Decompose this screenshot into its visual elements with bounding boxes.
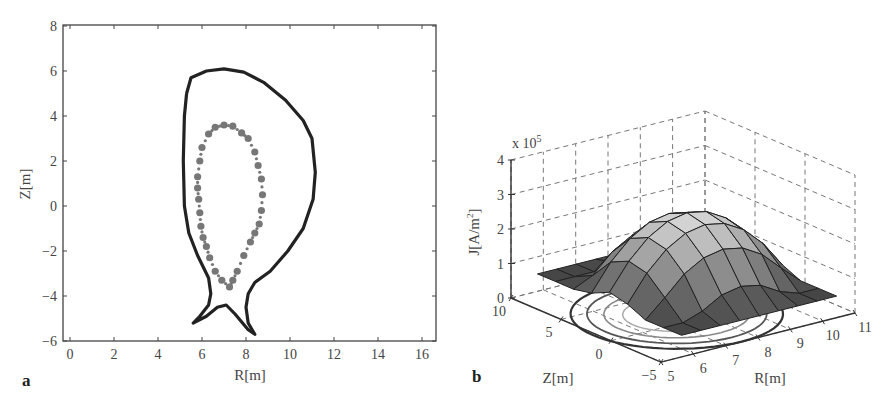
contour-marker	[196, 157, 203, 164]
j-tick-label: 3	[497, 188, 504, 203]
contour-marker	[194, 173, 201, 180]
x-tick-label: 6	[199, 347, 206, 362]
contour-marker	[220, 121, 227, 128]
panel-b-zlabel: J[A/m2]	[465, 209, 482, 256]
y-tick-label: 8	[50, 19, 57, 34]
r-tick-label: 5	[668, 369, 675, 384]
r-tick-label: 9	[797, 336, 804, 351]
grid-line	[705, 146, 855, 210]
x-tick-label: 14	[371, 347, 385, 362]
contour-dot	[255, 157, 258, 160]
x-tick-label: 4	[155, 347, 162, 362]
contour-marker	[229, 123, 236, 130]
figure: 0246810121416−6−4−202468 R[m] Z[m] a 012…	[0, 0, 893, 409]
panel-b-label: b	[472, 367, 481, 386]
contour-marker	[251, 229, 258, 236]
contour-dot	[250, 144, 253, 147]
contour-dot	[199, 153, 202, 156]
panel-a-chart: 0246810121416−6−4−202468 R[m] Z[m] a	[17, 19, 436, 390]
contour-dot	[236, 128, 239, 131]
r-tick-label: 6	[700, 361, 707, 376]
contour-dot	[204, 139, 207, 142]
contour-dot	[197, 167, 200, 170]
r-tick-label: 10	[826, 328, 840, 343]
contour-marker	[245, 135, 252, 142]
grid-line	[705, 111, 855, 175]
contour-marker	[198, 144, 205, 151]
contour-marker	[251, 148, 258, 155]
contour-marker	[206, 254, 213, 261]
panel-b-chart: 01234−50510567891011 x 105 J[A/m2] Z[m] …	[465, 111, 872, 386]
j-tick-label: 1	[497, 257, 504, 272]
panel-a-xlabel: R[m]	[234, 367, 266, 383]
contour-dot	[258, 171, 261, 174]
x-tick-label: 16	[415, 347, 429, 362]
contour-marker	[203, 243, 210, 250]
y-tick-label: −4	[42, 289, 57, 304]
contour-dot	[259, 216, 262, 219]
contour-marker	[256, 220, 263, 227]
x-tick-label: 12	[327, 347, 341, 362]
z-tick-label: −5	[642, 368, 657, 383]
contour-marker	[247, 238, 254, 245]
contour-dot	[196, 181, 199, 184]
contour-marker	[194, 184, 201, 191]
inner-contour-dots	[194, 121, 266, 290]
y-tick-label: 0	[50, 199, 57, 214]
z-tick-label: 10	[492, 304, 506, 319]
contour-marker	[196, 209, 203, 216]
contour-dot	[239, 262, 242, 265]
contour-marker	[200, 234, 207, 241]
contour-marker	[212, 268, 219, 275]
contour-marker	[240, 252, 247, 259]
contour-dot	[200, 230, 203, 233]
contour-dot	[197, 192, 200, 195]
contour-dot	[246, 247, 249, 250]
j-tick-label: 2	[497, 222, 504, 237]
panel-b-ylabel: Z[m]	[543, 370, 574, 386]
j-tick-label: 4	[497, 153, 504, 168]
contour-marker	[197, 223, 204, 230]
contour-marker	[259, 191, 266, 198]
contour-marker	[195, 196, 202, 203]
panel-a-ylabel: Z[m]	[17, 169, 33, 200]
contour-marker	[258, 175, 265, 182]
z-tick-label: 5	[546, 325, 553, 340]
y-tick-label: 6	[50, 64, 57, 79]
y-tick-label: 4	[50, 109, 57, 124]
contour-dot	[217, 274, 220, 277]
z-tick-label: 0	[596, 347, 603, 362]
r-tick-label: 11	[858, 320, 871, 335]
contour-dot	[260, 201, 263, 204]
panel-a-label: a	[22, 371, 31, 390]
contour-marker	[234, 268, 241, 275]
x-tick-label: 0	[67, 347, 74, 362]
contour-dot	[260, 185, 263, 188]
outer-boundary-curve	[183, 69, 315, 335]
r-tick-label: 8	[764, 345, 771, 360]
z-multiplier: x 105	[512, 133, 542, 151]
contour-dot	[206, 251, 209, 254]
contour-marker	[212, 124, 219, 131]
contour-marker	[258, 207, 265, 214]
contour-dot	[211, 263, 214, 266]
contour-dot	[199, 218, 202, 221]
y-tick-label: 2	[50, 154, 57, 169]
r-tick-label: 7	[732, 353, 739, 368]
contour-marker	[255, 162, 262, 169]
current-density-surface	[538, 212, 837, 336]
y-tick-label: −6	[42, 334, 57, 349]
panel-b-xlabel: R[m]	[754, 370, 786, 386]
x-tick-label: 8	[243, 347, 250, 362]
y-tick-label: −2	[42, 244, 57, 259]
contour-dot	[198, 204, 201, 207]
x-tick-label: 10	[283, 347, 297, 362]
contour-marker	[218, 277, 225, 284]
x-tick-label: 2	[111, 347, 118, 362]
